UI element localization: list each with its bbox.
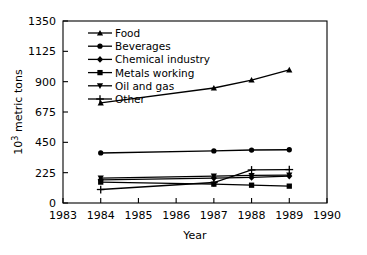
y-axis-tick-label: 225 <box>35 167 56 180</box>
legend-label: Other <box>115 93 145 105</box>
y-axis-tick-label: 900 <box>35 76 56 89</box>
data-point-marker <box>211 148 216 153</box>
legend-label: Metals working <box>115 67 194 79</box>
legend-marker-square-icon <box>97 70 102 75</box>
y-axis-tick-label: 675 <box>35 106 56 119</box>
x-axis-tick-label: 1986 <box>162 209 190 222</box>
data-point-marker <box>249 183 254 188</box>
data-point-marker <box>287 184 292 189</box>
x-axis-tick-label: 1989 <box>275 209 303 222</box>
x-axis-tick-label: 1984 <box>87 209 115 222</box>
y-axis-tick-label: 450 <box>35 136 56 149</box>
x-axis-title: Year <box>182 229 207 242</box>
y-axis-tick-label: 1350 <box>28 15 56 28</box>
data-point-marker <box>98 150 103 155</box>
legend-marker-circle-icon <box>97 44 102 49</box>
y-axis-tick-label: 1125 <box>28 45 56 58</box>
legend-label: Food <box>115 27 140 39</box>
legend-label: Chemical industry <box>115 53 210 65</box>
x-axis-tick-label: 1983 <box>49 209 77 222</box>
line-chart: 0225450675900112513501983198419851986198… <box>0 0 367 255</box>
y-axis-title-text: 103 metric tons <box>11 69 25 155</box>
x-axis-tick-label: 1990 <box>313 209 341 222</box>
legend-label: Oil and gas <box>115 80 174 92</box>
data-point-marker <box>249 147 254 152</box>
y-axis-title: 103 metric tons <box>11 69 25 155</box>
chart-figure: 0225450675900112513501983198419851986198… <box>0 0 367 255</box>
x-axis-tick-label: 1988 <box>238 209 266 222</box>
legend-label: Beverages <box>115 40 171 52</box>
data-point-marker <box>287 147 292 152</box>
x-axis-tick-label: 1985 <box>124 209 152 222</box>
x-axis-tick-label: 1987 <box>200 209 228 222</box>
